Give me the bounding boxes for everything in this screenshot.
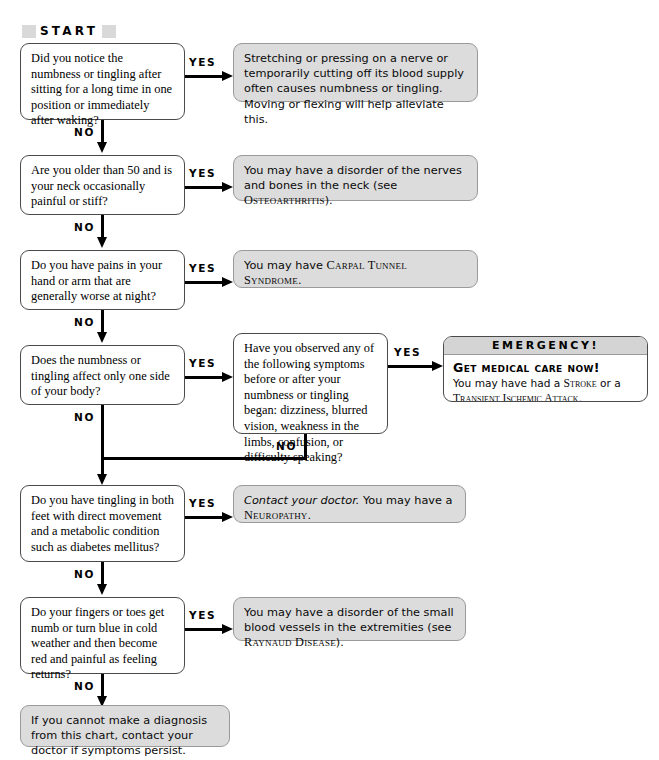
branch-label-yes-5: YES — [394, 347, 421, 358]
start-banner: START — [22, 25, 116, 38]
emergency-header-label: EMERGENCY! — [492, 340, 599, 352]
answer-7-term: Raynaud Disease — [244, 635, 336, 649]
branch-label-no-2: NO — [74, 222, 95, 233]
question-1-text: Did you notice the numbness or tingling … — [31, 51, 172, 127]
arrowhead-yes-2 — [222, 182, 233, 192]
answer-box-2: You may have a disorder of the nerves an… — [233, 155, 478, 201]
branch-label-yes-3: YES — [189, 263, 216, 274]
arrowhead-no-1 — [97, 142, 107, 153]
answer-2-term: Osteoarthritis — [244, 193, 325, 207]
emergency-term-tia: Transient Ischemic Attack — [453, 392, 579, 402]
branch-label-no-7: NO — [74, 681, 95, 692]
arrowhead-yes-1 — [222, 71, 233, 81]
question-box-6: Do you have tingling in both feet with d… — [20, 485, 185, 562]
answer-box-3: You may have Carpal Tunnel Syndrome. — [233, 250, 478, 288]
branch-label-no-3: NO — [74, 317, 95, 328]
arrowhead-yes-6 — [222, 512, 233, 522]
answer-6-italic: Contact your doctor. — [244, 494, 359, 507]
arrowhead-yes-3 — [222, 277, 233, 287]
question-6-text: Do you have tingling in both feet with d… — [31, 493, 174, 554]
emergency-body-suffix: . — [579, 392, 582, 402]
question-box-3: Do you have pains in your hand or arm th… — [20, 250, 185, 310]
emergency-body: Get medical care now! You may have had a… — [444, 355, 647, 402]
emergency-box: EMERGENCY! Get medical care now! You may… — [443, 336, 648, 402]
connector-no-5-horizontal — [101, 457, 307, 460]
answer-box-6: Contact your doctor. You may have a Neur… — [233, 485, 466, 523]
question-box-2: Are you older than 50 and is your neck o… — [20, 155, 185, 215]
arrowhead-no-2 — [97, 237, 107, 248]
arrowhead-yes-4 — [222, 372, 233, 382]
arrowhead-no-3 — [97, 332, 107, 343]
answer-box-1: Stretching or pressing on a nerve or tem… — [233, 43, 478, 102]
answer-2-prefix: You may have a disorder of the nerves an… — [244, 164, 462, 192]
question-box-5: Have you observed any of the following s… — [233, 333, 388, 434]
question-4-text: Does the numbness or tingling affect onl… — [31, 353, 170, 398]
emergency-term-stroke: Stroke — [564, 377, 597, 390]
question-3-text: Do you have pains in your hand or arm th… — [31, 258, 162, 303]
branch-label-yes-1: YES — [189, 57, 216, 68]
connector-yes-5 — [388, 365, 438, 368]
branch-label-yes-4: YES — [189, 358, 216, 369]
branch-label-yes-7: YES — [189, 610, 216, 621]
question-box-7: Do your fingers or toes get numb or turn… — [20, 597, 185, 674]
answer-3-suffix: . — [298, 274, 302, 287]
answer-box-7: You may have a disorder of the small blo… — [233, 597, 466, 641]
emergency-body-prefix: You may have had a — [453, 377, 564, 389]
arrowhead-yes-7 — [222, 624, 233, 634]
question-2-text: Are you older than 50 and is your neck o… — [31, 163, 172, 208]
emergency-heading: Get medical care now! — [453, 360, 639, 375]
symptom-flowchart: START Did you notice the numbness or tin… — [0, 0, 659, 760]
branch-label-no-5: NO — [276, 441, 297, 452]
arrowhead-no-6 — [97, 584, 107, 595]
answer-2-suffix: ). — [325, 194, 333, 207]
question-5-text: Have you observed any of the following s… — [244, 341, 374, 464]
emergency-header: EMERGENCY! — [444, 337, 647, 355]
branch-label-no-4: NO — [74, 412, 95, 423]
branch-label-yes-6: YES — [189, 498, 216, 509]
answer-6-term: Neuropathy — [244, 508, 308, 522]
emergency-body-middle: or a — [597, 377, 621, 389]
branch-label-no-6: NO — [74, 569, 95, 580]
answer-box-final: If you cannot make a diagnosis from this… — [20, 705, 230, 747]
question-7-text: Do your fingers or toes get numb or turn… — [31, 605, 164, 681]
answer-final-text: If you cannot make a diagnosis from this… — [31, 714, 207, 757]
answer-7-suffix: ). — [336, 636, 344, 649]
answer-3-prefix: You may have — [244, 259, 327, 272]
arrowhead-yes-5 — [432, 361, 443, 371]
branch-label-yes-2: YES — [189, 168, 216, 179]
connector-no-4 — [101, 405, 104, 478]
question-box-4: Does the numbness or tingling affect onl… — [20, 345, 185, 405]
branch-label-no-1: NO — [74, 127, 95, 138]
answer-6-suffix: . — [308, 509, 312, 522]
start-label: START — [36, 25, 102, 38]
answer-1-text: Stretching or pressing on a nerve or tem… — [244, 52, 464, 126]
answer-6-prefix: You may have a — [359, 494, 452, 507]
arrowhead-no-4 — [97, 474, 107, 485]
answer-7-prefix: You may have a disorder of the small blo… — [244, 606, 454, 634]
question-box-1: Did you notice the numbness or tingling … — [20, 43, 185, 120]
